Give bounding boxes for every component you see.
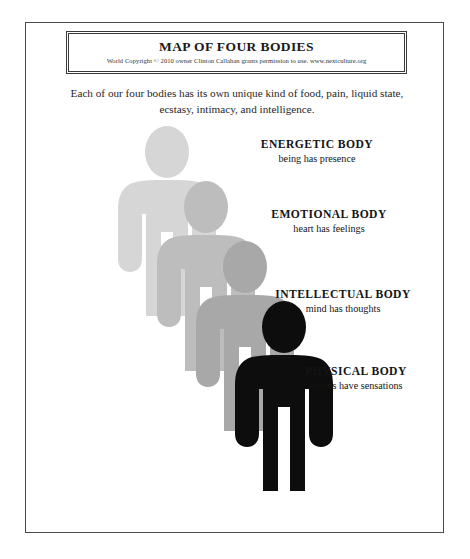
page-title: MAP OF FOUR BODIES	[159, 40, 314, 55]
copyright-notice: World Copyright © 2010 owner Clinton Cal…	[107, 57, 367, 64]
label-energetic-body: ENERGETIC BODY being has presence	[222, 138, 412, 166]
physical-body-subtitle: organs have sensations	[268, 379, 444, 392]
label-emotional-body: EMOTIONAL BODY heart has feelings	[234, 208, 424, 236]
emotional-body-subtitle: heart has feelings	[234, 222, 424, 235]
map-of-four-bodies-page: MAP OF FOUR BODIES World Copyright © 201…	[0, 0, 470, 559]
emotional-body-title: EMOTIONAL BODY	[234, 208, 424, 221]
intellectual-body-title: INTELLECTUAL BODY	[248, 288, 438, 301]
energetic-body-title: ENERGETIC BODY	[222, 138, 412, 151]
label-intellectual-body: INTELLECTUAL BODY mind has thoughts	[248, 288, 438, 316]
intro-paragraph: Each of our four bodies has its own uniq…	[62, 86, 412, 118]
physical-body-title: PHYSICAL BODY	[268, 365, 444, 378]
label-physical-body: PHYSICAL BODY organs have sensations	[268, 365, 444, 393]
intellectual-body-subtitle: mind has thoughts	[248, 302, 438, 315]
energetic-body-subtitle: being has presence	[222, 152, 412, 165]
title-box: MAP OF FOUR BODIES World Copyright © 201…	[68, 33, 405, 72]
